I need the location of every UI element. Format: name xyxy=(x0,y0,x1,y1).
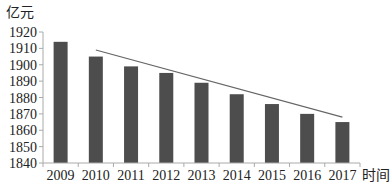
bars xyxy=(54,42,350,163)
bar-2011 xyxy=(124,66,138,163)
bar-2015 xyxy=(265,104,279,163)
x-tick-label: 2017 xyxy=(328,168,356,183)
y-tick-label: 1840 xyxy=(9,156,37,171)
bar-2013 xyxy=(195,83,209,163)
bar-chart: 亿元 184018501860187018801890190019101920 … xyxy=(0,0,392,190)
bar-2012 xyxy=(159,73,173,163)
y-tick-label: 1900 xyxy=(9,58,37,73)
bar-2017 xyxy=(335,122,349,163)
y-tick-label: 1910 xyxy=(9,41,37,56)
y-tick-label: 1920 xyxy=(9,25,37,40)
bar-2009 xyxy=(54,42,68,163)
bar-2010 xyxy=(89,57,103,163)
y-axis: 184018501860187018801890190019101920 xyxy=(9,25,43,171)
x-tick-label: 2009 xyxy=(47,168,75,183)
bar-2016 xyxy=(300,114,314,163)
y-tick-label: 1870 xyxy=(9,107,37,122)
x-tick-label: 2012 xyxy=(152,168,180,183)
x-axis-label: 时间 xyxy=(362,168,390,183)
x-tick-label: 2013 xyxy=(188,168,216,183)
x-tick-label: 2016 xyxy=(293,168,321,183)
y-tick-label: 1860 xyxy=(9,123,37,138)
x-tick-label: 2015 xyxy=(258,168,286,183)
bar-2014 xyxy=(230,94,244,163)
x-tick-label: 2011 xyxy=(117,168,144,183)
y-tick-label: 1880 xyxy=(9,91,37,106)
x-tick-label: 2010 xyxy=(82,168,110,183)
y-tick-label: 1890 xyxy=(9,74,37,89)
y-tick-label: 1850 xyxy=(9,140,37,155)
x-tick-label: 2014 xyxy=(223,168,251,183)
x-axis: 200920102011201220132014201520162017 xyxy=(43,163,360,183)
y-axis-label: 亿元 xyxy=(6,5,34,20)
